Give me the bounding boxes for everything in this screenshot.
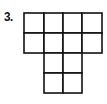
grid-cell [44,33,63,53]
square-grid-figure [0,0,107,104]
grid-cell [63,33,82,53]
grid-cell [24,13,44,33]
grid-cell [63,13,82,33]
grid-cells [24,13,102,93]
grid-cell [44,73,63,93]
grid-cell [82,13,102,33]
grid-cell [63,53,82,73]
grid-cell [44,13,63,33]
grid-cell [82,33,102,53]
grid-cell [44,53,63,73]
problem-figure: 3. [0,0,107,104]
grid-cell [63,73,82,93]
grid-cell [24,33,44,53]
